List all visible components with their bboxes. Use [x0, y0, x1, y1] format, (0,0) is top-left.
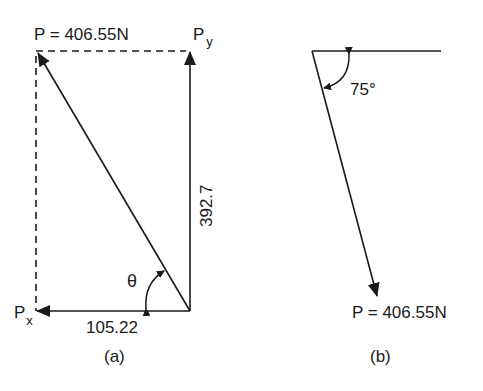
angle-arc — [324, 54, 349, 88]
diagram-canvas: P = 406.55N Py Px 392.7 105.22 θ (a) 75°… — [0, 0, 483, 391]
resultant-arrow — [38, 53, 190, 311]
horizontal-value-label: 105.22 — [86, 318, 138, 337]
force-label: P = 406.55N — [352, 303, 447, 322]
vertical-value-label: 392.7 — [197, 184, 216, 227]
py-label: Py — [193, 25, 213, 49]
force-diagram: P = 406.55N Py Px 392.7 105.22 θ (a) 75°… — [0, 0, 483, 391]
angle-label: 75° — [350, 80, 376, 99]
theta-label: θ — [127, 271, 137, 291]
theta-arc — [146, 271, 164, 309]
resultant-label: P = 406.55N — [34, 25, 129, 44]
caption-a: (a) — [104, 347, 125, 366]
figure-a: P = 406.55N Py Px 392.7 105.22 θ (a) — [14, 25, 216, 366]
px-label: Px — [14, 303, 33, 328]
figure-b: 75° P = 406.55N (b) — [312, 51, 447, 366]
caption-b: (b) — [370, 347, 391, 366]
